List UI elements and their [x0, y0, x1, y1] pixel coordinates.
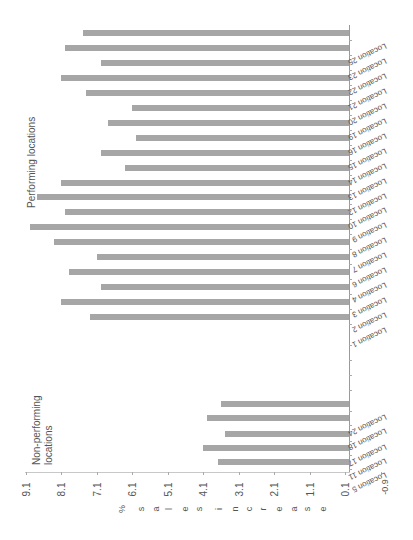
- category-tick: [349, 160, 352, 161]
- bar: [61, 299, 349, 305]
- bar: [97, 254, 349, 260]
- category-tick: [349, 175, 352, 176]
- non-performing-annotation: Non-performing locations: [31, 396, 55, 465]
- value-tick-label: 5.1: [162, 478, 173, 502]
- value-tick: [97, 472, 98, 475]
- category-tick: [349, 145, 352, 146]
- category-tick: [349, 70, 352, 71]
- bar: [65, 209, 349, 215]
- y-axis-label-char: e: [317, 506, 327, 511]
- value-tick: [168, 472, 169, 475]
- y-axis-label-char: e: [274, 506, 284, 511]
- category-tick: [349, 234, 352, 235]
- bar: [83, 30, 349, 36]
- category-tick: [349, 85, 352, 86]
- value-tick: [26, 472, 27, 475]
- y-axis-label-char: e: [180, 506, 190, 511]
- y-axis-label-char: l: [164, 508, 174, 510]
- category-tick: [349, 425, 352, 426]
- category-tick: [349, 264, 352, 265]
- bar: [203, 445, 349, 451]
- category-tick: [349, 219, 352, 220]
- category-tick: [349, 390, 352, 391]
- y-axis-label-char: %: [117, 505, 127, 513]
- category-tick: [349, 40, 352, 41]
- y-axis-label-char: a: [288, 506, 298, 511]
- category-tick: [349, 115, 352, 116]
- value-tick: [203, 472, 204, 475]
- category-tick: [349, 190, 352, 191]
- bar: [30, 224, 350, 230]
- bar: [86, 90, 349, 96]
- value-tick: [274, 472, 275, 475]
- bar-chart: 9.18.17.16.15.14.13.12.11.10.1-0.9 Locat…: [0, 0, 413, 540]
- bar: [132, 105, 349, 111]
- bar: [90, 314, 349, 320]
- value-tick-label: 2.1: [269, 478, 280, 502]
- category-tick: [349, 324, 352, 325]
- y-axis-label-char: s: [302, 507, 312, 512]
- bar: [101, 60, 350, 66]
- category-tick: [349, 249, 352, 250]
- category-tick: [349, 279, 352, 280]
- value-tick-label: 0.1: [340, 478, 351, 502]
- category-tick: [349, 360, 352, 361]
- bar: [54, 239, 349, 245]
- bar: [108, 120, 349, 126]
- y-axis-label-char: s: [136, 507, 146, 512]
- value-tick-label: 6.1: [127, 478, 138, 502]
- value-tick-label: 3.1: [233, 478, 244, 502]
- category-tick: [349, 411, 352, 412]
- category-tick: [349, 469, 352, 470]
- bar: [125, 165, 349, 171]
- bar: [61, 75, 349, 81]
- bar: [101, 150, 350, 156]
- category-tick: [349, 204, 352, 205]
- bar: [61, 180, 349, 186]
- category-tick: [349, 441, 352, 442]
- category-tick: [349, 55, 352, 56]
- value-tick-label: 4.1: [198, 478, 209, 502]
- y-axis-label-char: s: [194, 507, 204, 512]
- bar: [218, 459, 349, 465]
- y-axis-label-char: a: [151, 506, 161, 511]
- category-tick: [349, 130, 352, 131]
- value-tick: [132, 472, 133, 475]
- category-tick: [349, 375, 352, 376]
- y-axis-label-char: r: [258, 508, 268, 511]
- bar: [225, 431, 349, 437]
- y-axis-label-char: n: [230, 506, 240, 511]
- category-tick: [349, 294, 352, 295]
- value-tick: [61, 472, 62, 475]
- value-tick: [310, 472, 311, 475]
- category-tick: [349, 455, 352, 456]
- y-axis-label-char: c: [244, 507, 254, 512]
- performing-annotation: Performing locations: [26, 117, 38, 208]
- bar: [101, 284, 350, 290]
- value-tick: [239, 472, 240, 475]
- bar: [136, 135, 349, 141]
- bar: [37, 194, 349, 200]
- bar: [221, 401, 349, 407]
- bar: [69, 269, 349, 275]
- value-tick-label: 7.1: [91, 478, 102, 502]
- y-axis-label-char: i: [214, 508, 224, 510]
- value-tick-label: 9.1: [20, 478, 31, 502]
- value-axis: [25, 472, 350, 473]
- value-tick-label: 1.1: [304, 478, 315, 502]
- category-tick: [349, 100, 352, 101]
- category-tick: [349, 345, 352, 346]
- bar: [207, 415, 349, 421]
- value-tick-label: 8.1: [56, 478, 67, 502]
- bar: [65, 45, 349, 51]
- category-tick: [349, 309, 352, 310]
